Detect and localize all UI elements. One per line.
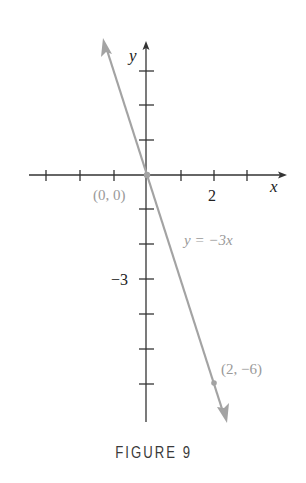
y-axis-label: y bbox=[127, 46, 137, 65]
origin-point bbox=[144, 172, 150, 178]
point-2-neg6-label: (2, −6) bbox=[221, 361, 262, 378]
y-tick-label-neg3: −3 bbox=[111, 271, 128, 288]
line-equation-label: y = −3x bbox=[182, 232, 233, 248]
point-2-neg6 bbox=[211, 380, 217, 386]
line-y-equals-neg3x bbox=[106, 47, 223, 412]
line-top-arrow-icon bbox=[101, 38, 112, 57]
x-axis bbox=[29, 170, 282, 181]
line-bottom-arrow-icon bbox=[217, 403, 229, 423]
chart-figure: y x 2 −3 (0, 0) y = −3x (2, −6) bbox=[0, 0, 306, 483]
origin-label: (0, 0) bbox=[93, 187, 126, 204]
y-axis bbox=[139, 47, 154, 422]
x-axis-label: x bbox=[269, 177, 278, 196]
x-tick-label-2: 2 bbox=[208, 187, 216, 204]
figure-caption: FIGURE 9 bbox=[28, 444, 279, 462]
